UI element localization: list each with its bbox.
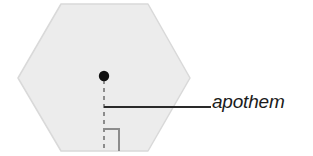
apothem-label: apothem xyxy=(212,91,285,113)
geometry-figure xyxy=(0,0,313,156)
apothem-diagram: apothem xyxy=(0,0,313,156)
center-point-dot xyxy=(99,71,109,81)
